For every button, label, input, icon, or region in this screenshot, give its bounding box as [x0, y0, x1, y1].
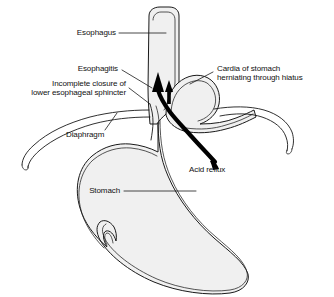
leader-diaphragm: [105, 113, 117, 130]
label-diaphragm: Diaphragm: [66, 130, 136, 140]
label-cardia-line2: herniating through hiatus: [217, 73, 331, 83]
label-sphincter-line2: lower esophageal sphincter: [6, 88, 126, 98]
diaphragm-left-tip: [22, 165, 28, 170]
label-stomach: Stomach: [62, 186, 120, 196]
label-esophagus: Esophagus: [38, 28, 116, 38]
diaphragm-right-tip: [286, 149, 292, 154]
stomach-shape: [77, 118, 248, 294]
leader-sphincter: [129, 88, 150, 104]
label-acid-reflux: Acid reflux: [189, 165, 259, 175]
anatomy-figure: Esophagus Esophagitis Incomplete closure…: [0, 0, 334, 297]
leader-esophagitis: [122, 70, 152, 88]
label-esophagitis: Esophagitis: [38, 64, 118, 74]
anatomy-diagram: [0, 0, 334, 297]
